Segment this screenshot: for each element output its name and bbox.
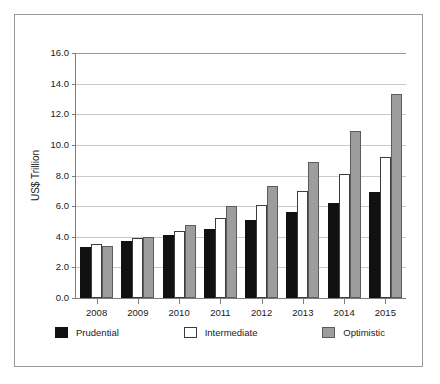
bar-optimistic-2009 bbox=[143, 237, 154, 298]
x-axis-tick-mark bbox=[262, 299, 263, 304]
x-axis-tick-mark bbox=[179, 299, 180, 304]
bar-group: 2015 bbox=[365, 53, 406, 298]
y-axis-tick-label: 10.0 bbox=[51, 140, 77, 150]
x-axis-tick-mark bbox=[220, 299, 221, 304]
bar-intermediate-2009 bbox=[132, 238, 143, 298]
y-axis-tick-label: 14.0 bbox=[51, 79, 77, 89]
bar-group: 2014 bbox=[324, 53, 365, 298]
legend-item-optimistic: Optimistic bbox=[322, 327, 385, 338]
legend-item-intermediate: Intermediate bbox=[184, 327, 258, 338]
x-axis-tick-label: 2012 bbox=[251, 307, 272, 318]
bar-intermediate-2014 bbox=[339, 174, 350, 298]
bar-group: 2012 bbox=[241, 53, 282, 298]
bar-prudential-2012 bbox=[245, 220, 256, 298]
legend-swatch-intermediate bbox=[184, 327, 197, 338]
legend-label: Optimistic bbox=[343, 327, 385, 338]
y-axis-title: US$ Trillion bbox=[29, 53, 43, 298]
bar-intermediate-2015 bbox=[380, 157, 391, 298]
legend-swatch-optimistic bbox=[322, 327, 335, 338]
bar-optimistic-2012 bbox=[267, 186, 278, 298]
bar-optimistic-2011 bbox=[226, 206, 237, 298]
plot-area: 0.02.04.06.08.010.012.014.016.0 20082009… bbox=[75, 53, 406, 299]
bar-group: 2008 bbox=[76, 53, 117, 298]
y-axis-tick-label: 4.0 bbox=[56, 232, 76, 242]
x-axis-tick-label: 2009 bbox=[127, 307, 148, 318]
x-axis-tick-label: 2015 bbox=[375, 307, 396, 318]
chart-legend: PrudentialIntermediateOptimistic bbox=[55, 327, 385, 338]
bar-intermediate-2011 bbox=[215, 218, 226, 298]
bar-optimistic-2015 bbox=[391, 94, 402, 298]
legend-label: Intermediate bbox=[205, 327, 258, 338]
bar-group: 2010 bbox=[159, 53, 200, 298]
x-axis-tick-mark bbox=[138, 299, 139, 304]
bar-intermediate-2012 bbox=[256, 205, 267, 298]
bar-prudential-2014 bbox=[328, 203, 339, 298]
x-axis-tick-label: 2008 bbox=[86, 307, 107, 318]
bar-optimistic-2008 bbox=[102, 246, 113, 298]
bar-group: 2011 bbox=[200, 53, 241, 298]
bar-prudential-2011 bbox=[204, 229, 215, 298]
bar-group: 2009 bbox=[117, 53, 158, 298]
bar-optimistic-2013 bbox=[308, 162, 319, 298]
chart-figure: US$ Trillion 0.02.04.06.08.010.012.014.0… bbox=[14, 14, 423, 367]
bar-intermediate-2013 bbox=[297, 191, 308, 298]
legend-label: Prudential bbox=[76, 327, 119, 338]
x-axis-tick-mark bbox=[385, 299, 386, 304]
legend-swatch-prudential bbox=[55, 327, 68, 338]
x-axis-tick-mark bbox=[344, 299, 345, 304]
y-axis-tick-label: 16.0 bbox=[51, 48, 77, 58]
legend-item-prudential: Prudential bbox=[55, 327, 119, 338]
y-axis-tick-label: 12.0 bbox=[51, 110, 77, 120]
bar-prudential-2015 bbox=[369, 192, 380, 298]
x-axis-tick-label: 2014 bbox=[334, 307, 355, 318]
x-axis-tick-label: 2013 bbox=[292, 307, 313, 318]
bar-groups: 20082009201020112012201320142015 bbox=[76, 53, 406, 298]
bar-intermediate-2008 bbox=[91, 244, 102, 298]
x-axis-tick-mark bbox=[97, 299, 98, 304]
bar-optimistic-2014 bbox=[350, 131, 361, 298]
x-axis-tick-label: 2010 bbox=[169, 307, 190, 318]
bar-prudential-2009 bbox=[121, 241, 132, 298]
bar-intermediate-2010 bbox=[174, 231, 185, 298]
x-axis-tick-mark bbox=[303, 299, 304, 304]
bar-optimistic-2010 bbox=[185, 225, 196, 299]
y-axis-tick-label: 0.0 bbox=[56, 293, 76, 303]
y-axis-tick-label: 2.0 bbox=[56, 263, 76, 273]
bar-prudential-2008 bbox=[80, 247, 91, 298]
bar-group: 2013 bbox=[282, 53, 323, 298]
bar-prudential-2013 bbox=[286, 212, 297, 298]
bar-prudential-2010 bbox=[163, 235, 174, 298]
y-axis-tick-label: 6.0 bbox=[56, 201, 76, 211]
x-axis-tick-label: 2011 bbox=[210, 307, 230, 318]
y-axis-tick-label: 8.0 bbox=[56, 171, 76, 181]
